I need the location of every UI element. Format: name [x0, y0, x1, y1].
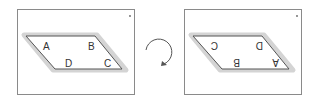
- vertex-label-a: A: [272, 57, 279, 68]
- rotated-figure-panel: C D B A: [184, 9, 302, 95]
- vertex-label-c: C: [104, 58, 111, 69]
- original-figure-panel: A B D C: [17, 9, 135, 95]
- vertex-label-c: C: [211, 40, 218, 51]
- vertex-label-d: D: [256, 40, 263, 51]
- vertex-label-a: A: [43, 41, 50, 52]
- rotated-parallelogram-figure: C D B A: [185, 10, 303, 96]
- rotate-clockwise-arrow-icon: [140, 30, 180, 70]
- vertex-label-b: B: [233, 57, 240, 68]
- parallelogram-figure: A B D C: [18, 10, 136, 96]
- vertex-label-b: B: [88, 41, 95, 52]
- vertex-label-d: D: [65, 58, 72, 69]
